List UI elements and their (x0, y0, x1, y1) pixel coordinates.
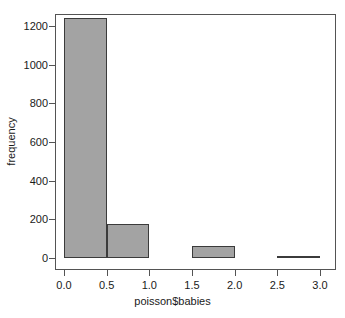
y-axis-tick (49, 26, 55, 27)
y-axis-tick-label: 200 (0, 214, 48, 225)
x-axis-tick-label: 3.0 (300, 280, 340, 291)
x-axis-tick (320, 270, 321, 276)
y-axis-tick-label: 0 (0, 253, 48, 264)
x-axis-title: poisson$babies (0, 296, 345, 307)
x-axis-tick (192, 270, 193, 276)
x-axis-tick-label: 2.5 (257, 280, 297, 291)
y-axis-tick (49, 181, 55, 182)
histogram-bar (107, 224, 150, 258)
x-axis-tick (107, 270, 108, 276)
histogram-bar (64, 18, 107, 258)
x-axis-tick-label: 0.0 (44, 280, 84, 291)
x-axis-tick-label: 1.0 (129, 280, 169, 291)
x-axis-tick-label: 1.5 (172, 280, 212, 291)
histogram-bar (277, 256, 320, 258)
y-axis-tick-label: 1200 (0, 21, 48, 32)
y-axis-tick (49, 258, 55, 259)
x-axis-tick (235, 270, 236, 276)
x-axis-tick (64, 270, 65, 276)
x-axis-tick (277, 270, 278, 276)
y-axis-tick (49, 142, 55, 143)
histogram-figure: 020040060080010001200 0.00.51.01.52.02.5… (0, 0, 345, 318)
y-axis-tick (49, 103, 55, 104)
x-axis-tick (149, 270, 150, 276)
x-axis-tick-label: 2.0 (215, 280, 255, 291)
x-axis-tick-label: 0.5 (87, 280, 127, 291)
y-axis-tick (49, 65, 55, 66)
y-axis-tick-label: 1000 (0, 60, 48, 71)
y-axis-title: frequency (6, 102, 17, 182)
histogram-bar (192, 246, 235, 258)
y-axis-tick (49, 219, 55, 220)
plot-area (55, 14, 336, 270)
